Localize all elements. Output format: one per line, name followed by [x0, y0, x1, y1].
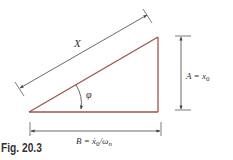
angle-phi-arc: [76, 85, 81, 109]
phasor-triangle-diagram: X φ A = x0 B = ẋ0/ωn: [0, 0, 233, 160]
label-B: B = ẋ0/ωn: [76, 136, 112, 148]
right-triangle: [29, 37, 158, 112]
label-A: A = x0: [185, 71, 210, 83]
dimension-B: [30, 122, 161, 136]
figure-caption: Fig. 20.3: [1, 141, 42, 155]
label-X: X: [73, 37, 82, 49]
label-phi: φ: [86, 89, 92, 100]
